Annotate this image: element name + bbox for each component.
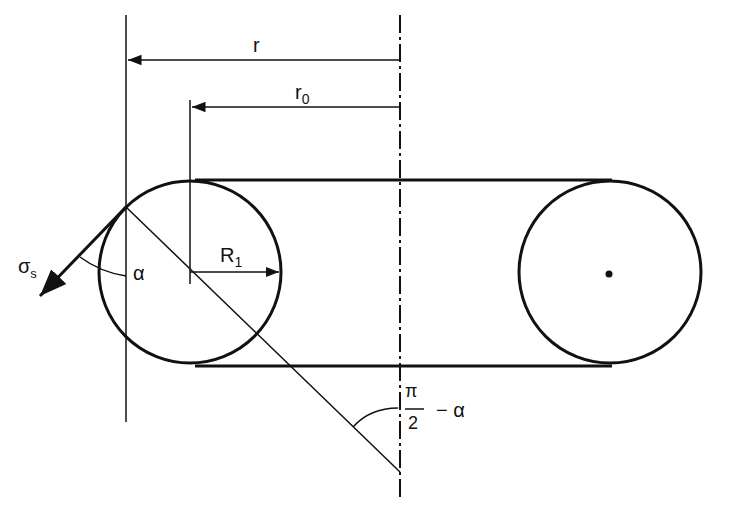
sigma-s-label: σs — [18, 255, 37, 281]
minus-alpha-label: − α — [436, 399, 465, 421]
pi-numerator: π — [405, 381, 417, 401]
r-label: r — [253, 34, 260, 56]
complement-angle-arc — [353, 408, 398, 427]
r1-label: R1 — [220, 244, 242, 270]
right-pulley-center-dot — [606, 271, 613, 278]
alpha-label: α — [133, 262, 145, 284]
two-denominator: 2 — [408, 413, 418, 433]
alpha-angle-arc — [80, 257, 126, 276]
r0-label: r0 — [295, 81, 310, 107]
diagram-canvas: r r0 R1 σs α π 2 − α — [0, 0, 733, 528]
sigma-s-stress-arrow — [40, 207, 126, 296]
diagonal-normal-line — [126, 207, 400, 472]
